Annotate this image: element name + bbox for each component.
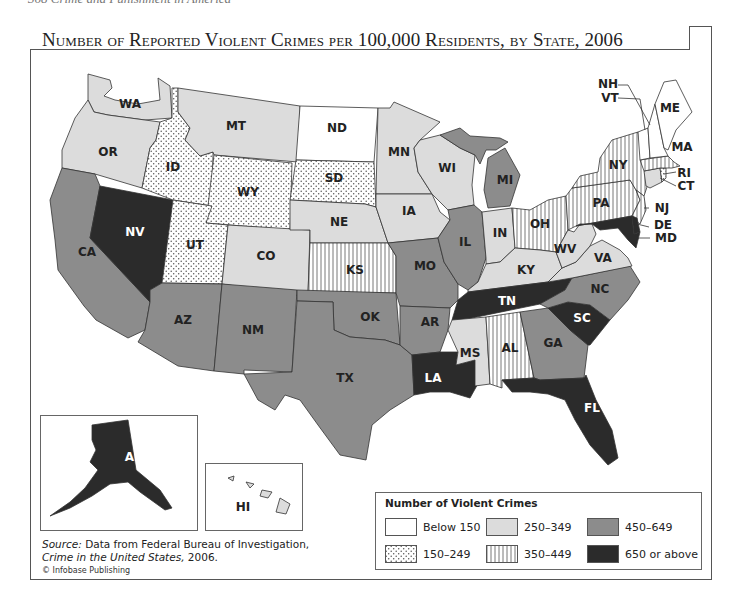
- state-FL: [502, 375, 618, 465]
- label-OR: OR: [98, 145, 117, 159]
- label-NE: NE: [330, 215, 348, 229]
- legend-label: Below 150: [423, 521, 481, 534]
- source-work: Crime in the United States,: [42, 551, 185, 563]
- label-WI: WI: [438, 161, 456, 175]
- label-GA: GA: [543, 336, 563, 350]
- label-KS: KS: [346, 263, 364, 277]
- state-CT: [644, 168, 662, 188]
- label-ND: ND: [327, 121, 347, 135]
- label-ID: ID: [166, 160, 180, 174]
- label-NV: NV: [125, 225, 145, 239]
- label-VT: VT: [601, 91, 619, 105]
- source-note: Source: Data from Federal Bureau of Inve…: [42, 538, 309, 564]
- legend-label: 650 or above: [625, 548, 698, 561]
- label-SD: SD: [325, 171, 344, 185]
- label-RI: RI: [677, 166, 691, 180]
- legend-item-below-150: Below 150: [385, 517, 481, 537]
- legend-label: 250–349: [524, 521, 572, 534]
- swatch-light-gray: [486, 518, 518, 536]
- label-WV: WV: [554, 242, 577, 256]
- label-CA: CA: [78, 245, 97, 259]
- label-PA: PA: [593, 196, 611, 210]
- state-AR: [400, 306, 450, 355]
- legend-item-650-plus: 650 or above: [587, 544, 698, 564]
- label-NY: NY: [609, 158, 628, 172]
- label-IL: IL: [459, 235, 471, 249]
- label-IA: IA: [402, 204, 416, 218]
- legend-title: Number of Violent Crimes: [385, 497, 538, 509]
- label-VA: VA: [594, 251, 612, 265]
- legend-label: 350–449: [524, 548, 572, 561]
- label-AZ: AZ: [174, 313, 192, 327]
- source-text: Data from Federal Bureau of Investigatio…: [82, 538, 309, 550]
- label-TX: TX: [336, 371, 354, 385]
- legend: Number of Violent Crimes Below 150 150–2…: [375, 492, 702, 570]
- copyright: © Infobase Publishing: [42, 566, 130, 575]
- label-AR: AR: [421, 315, 440, 329]
- legend-label: 450–649: [625, 521, 673, 534]
- label-DE: DE: [654, 218, 672, 232]
- swatch-dots: [385, 545, 417, 563]
- label-MD: MD: [655, 231, 677, 245]
- state-AK: [50, 420, 172, 516]
- label-OK: OK: [360, 310, 380, 324]
- label-SC: SC: [573, 311, 591, 325]
- label-OH: OH: [530, 217, 550, 231]
- label-CT: CT: [678, 179, 696, 193]
- label-WY: WY: [237, 185, 259, 199]
- label-FL: FL: [584, 401, 600, 415]
- label-NM: NM: [242, 323, 264, 337]
- label-LA: LA: [425, 371, 443, 385]
- legend-item-450-649: 450–649: [587, 517, 673, 537]
- label-NC: NC: [591, 282, 610, 296]
- label-MN: MN: [388, 145, 410, 159]
- swatch-medium-gray: [587, 518, 619, 536]
- label-MT: MT: [226, 119, 247, 133]
- label-IN: IN: [493, 226, 508, 240]
- label-TN: TN: [498, 294, 516, 308]
- label-NH: NH: [598, 77, 618, 91]
- label-MA: MA: [671, 140, 693, 154]
- label-KY: KY: [517, 263, 535, 277]
- source-year: 2006.: [185, 551, 218, 563]
- label-MO: MO: [414, 259, 436, 273]
- swatch-stripes: [486, 545, 518, 563]
- label-NJ: NJ: [655, 201, 670, 215]
- label-AL: AL: [502, 341, 519, 355]
- swatch-white: [385, 518, 417, 536]
- legend-item-250-349: 250–349: [486, 517, 572, 537]
- source-prefix: Source:: [42, 538, 82, 550]
- label-AK: AK: [125, 450, 144, 464]
- state-AZ: [138, 283, 222, 371]
- label-WA: WA: [119, 97, 142, 111]
- legend-label: 150–249: [423, 548, 471, 561]
- legend-item-150-249: 150–249: [385, 544, 471, 564]
- label-MI: MI: [497, 173, 513, 187]
- label-HI: HI: [236, 500, 251, 514]
- legend-item-350-449: 350–449: [486, 544, 572, 564]
- label-UT: UT: [186, 238, 205, 252]
- label-MS: MS: [460, 346, 481, 360]
- swatch-dark: [587, 545, 619, 563]
- label-ME: ME: [660, 101, 680, 115]
- label-CO: CO: [256, 249, 275, 263]
